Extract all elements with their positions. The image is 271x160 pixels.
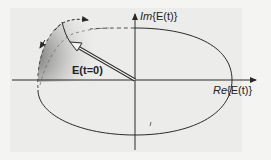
vector-label: E(t=0) <box>72 64 103 76</box>
tick-mark <box>150 122 151 126</box>
x-axis-label-arg: {E(t)} <box>227 84 252 96</box>
y-axis-label: Im{E(t)} <box>140 10 177 22</box>
phasor-diagram <box>0 0 271 160</box>
x-axis-label: Re{E(t)} <box>213 84 252 96</box>
y-axis-label-prefix: Im <box>140 10 152 22</box>
x-axis-label-prefix: Re <box>213 84 227 96</box>
y-axis-label-arg: {E(t)} <box>152 10 177 22</box>
